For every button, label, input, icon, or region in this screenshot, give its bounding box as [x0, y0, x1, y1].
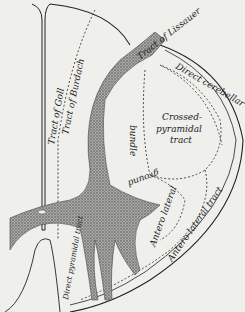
posterior-septum: [32, 4, 50, 230]
label-ground: ground: [126, 168, 161, 189]
label-tract-of-lissauer: Tract of Lissauer: [135, 5, 203, 61]
label-crossed-pyramidal-1: Crossed-: [162, 112, 202, 122]
label-antero-lateral: Antero lateral: [147, 184, 179, 248]
label-ground-bundle: bundle: [128, 125, 138, 156]
label-crossed-pyramidal-3: tract: [170, 135, 192, 145]
spinal-cord-diagram: Tract of Lissauer Direct cerebellar trac…: [0, 0, 245, 312]
diagram-svg: Tract of Lissauer Direct cerebellar trac…: [0, 0, 245, 312]
label-direct-pyramidal-tract: Direct pyramidal tract: [61, 214, 85, 301]
central-canal: [38, 210, 46, 214]
label-crossed-pyramidal-2: pyramidal: [156, 124, 202, 134]
anterior-fissure: [5, 239, 60, 312]
